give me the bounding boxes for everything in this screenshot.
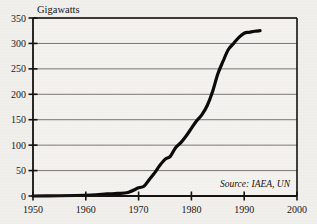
- nuclear-capacity-line-chart: 050100150200250300350 195019601970198019…: [0, 0, 317, 224]
- chart-figure: 050100150200250300350 195019601970198019…: [0, 0, 317, 224]
- y-tick-label: 200: [11, 89, 26, 100]
- y-tick-label: 150: [11, 114, 26, 125]
- x-tick-label: 1960: [76, 204, 96, 215]
- x-tick-label: 1980: [181, 204, 201, 215]
- x-tick-label: 2000: [287, 204, 307, 215]
- x-tick-label: 1990: [234, 204, 254, 215]
- y-tick-label: 250: [11, 63, 26, 74]
- source-annotation: Source: IAEA, UN: [220, 179, 291, 189]
- plot-area-background: [33, 18, 297, 196]
- y-tick-label: 100: [11, 140, 26, 151]
- y-tick-label: 50: [16, 165, 26, 176]
- y-axis-tick-labels: 050100150200250300350: [11, 13, 26, 202]
- x-tick-label: 1950: [23, 204, 43, 215]
- x-tick-label: 1970: [129, 204, 149, 215]
- x-axis-tick-labels: 195019601970198019902000: [23, 204, 307, 215]
- y-axis-title: Gigawatts: [37, 4, 80, 15]
- y-tick-label: 0: [21, 191, 26, 202]
- y-tick-label: 350: [11, 13, 26, 24]
- y-tick-label: 300: [11, 38, 26, 49]
